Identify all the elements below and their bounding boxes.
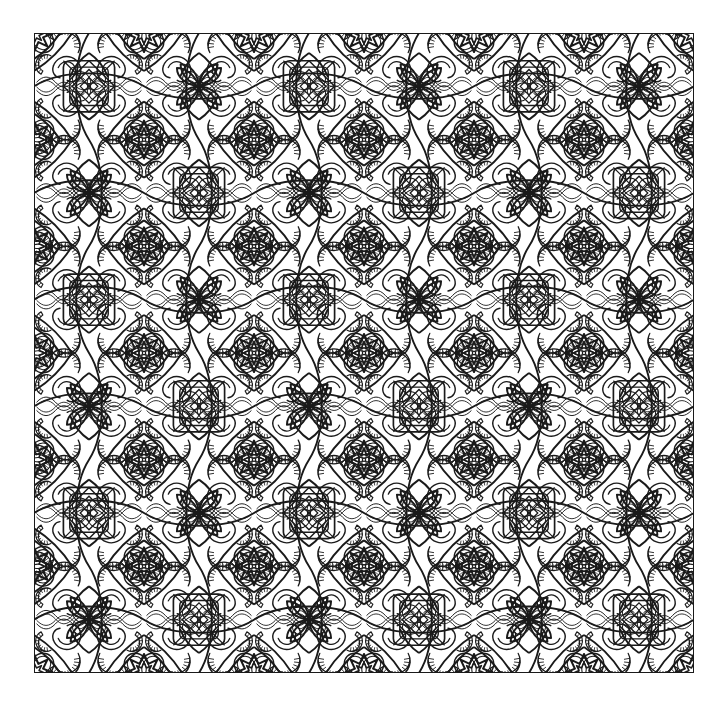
pattern-artwork — [34, 33, 694, 673]
pattern-frame — [34, 33, 694, 673]
artboard: Seamless Arabesque Coloring Pattern — [0, 0, 728, 704]
